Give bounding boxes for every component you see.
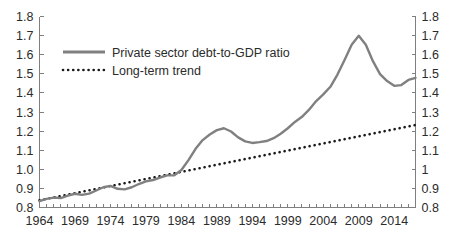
y-axis-right-tick-label: 1.4 bbox=[422, 86, 439, 100]
y-axis-left-ticks bbox=[40, 17, 44, 208]
legend-label: Private sector debt-to-GDP ratio bbox=[112, 46, 290, 60]
y-axis-left-tick-label: 1.7 bbox=[16, 29, 33, 43]
x-axis-tick-label: 1994 bbox=[238, 214, 266, 228]
y-axis-right-labels: 1.81.71.61.51.41.31.21.110.90.8 bbox=[422, 10, 439, 215]
y-axis-right-tick-label: 1.2 bbox=[422, 125, 439, 139]
y-axis-left-labels: 1.81.71.61.51.41.31.21.11.00.90.8 bbox=[16, 10, 33, 215]
x-axis-tick-label: 2014 bbox=[380, 214, 408, 228]
y-axis-right-tick-label: 0.9 bbox=[422, 182, 439, 196]
y-axis-right-tick-label: 1 bbox=[422, 163, 429, 177]
debt-to-gdp-line-chart: 1.81.71.61.51.41.31.21.11.00.90.8 1.81.7… bbox=[0, 0, 459, 241]
x-axis-minor-ticks bbox=[40, 204, 416, 208]
x-axis-labels: 1964196919741979198419891994199920042009… bbox=[26, 214, 409, 228]
y-axis-left-tick-label: 0.9 bbox=[16, 182, 33, 196]
x-axis-tick-label: 1989 bbox=[203, 214, 231, 228]
y-axis-right-tick-label: 1.1 bbox=[422, 144, 439, 158]
y-axis-right-tick-label: 1.3 bbox=[422, 106, 439, 120]
x-axis-tick-label: 2009 bbox=[345, 214, 373, 228]
x-axis-tick-label: 2004 bbox=[309, 214, 337, 228]
y-axis-right-tick-label: 1.6 bbox=[422, 48, 439, 62]
chart-container: 1.81.71.61.51.41.31.21.11.00.90.8 1.81.7… bbox=[0, 0, 459, 241]
long-term-trend-line bbox=[40, 125, 416, 200]
x-axis-tick-label: 1979 bbox=[132, 214, 160, 228]
x-axis-tick-label: 1974 bbox=[97, 214, 125, 228]
y-axis-left-tick-label: 1.5 bbox=[16, 67, 33, 81]
chart-legend: Private sector debt-to-GDP ratioLong-ter… bbox=[63, 46, 290, 78]
y-axis-left-tick-label: 1.2 bbox=[16, 125, 33, 139]
y-axis-right-tick-label: 1.7 bbox=[422, 29, 439, 43]
x-axis-tick-label: 1964 bbox=[26, 214, 54, 228]
legend-label: Long-term trend bbox=[112, 64, 201, 78]
x-axis-tick-label: 1984 bbox=[167, 214, 195, 228]
y-axis-left-tick-label: 1.0 bbox=[16, 163, 33, 177]
y-axis-right-tick-label: 1.8 bbox=[422, 10, 439, 24]
x-axis-tick-label: 1969 bbox=[61, 214, 89, 228]
y-axis-left-tick-label: 1.8 bbox=[16, 10, 33, 24]
y-axis-right-ticks bbox=[412, 17, 416, 208]
y-axis-right-tick-label: 0.8 bbox=[422, 201, 439, 215]
y-axis-left-tick-label: 1.3 bbox=[16, 106, 33, 120]
y-axis-right-tick-label: 1.5 bbox=[422, 67, 439, 81]
y-axis-left-tick-label: 1.6 bbox=[16, 48, 33, 62]
y-axis-left-tick-label: 1.4 bbox=[16, 86, 33, 100]
y-axis-left-tick-label: 1.1 bbox=[16, 144, 33, 158]
x-axis-tick-label: 1999 bbox=[274, 214, 302, 228]
private-sector-debt-ratio-line bbox=[40, 36, 416, 201]
